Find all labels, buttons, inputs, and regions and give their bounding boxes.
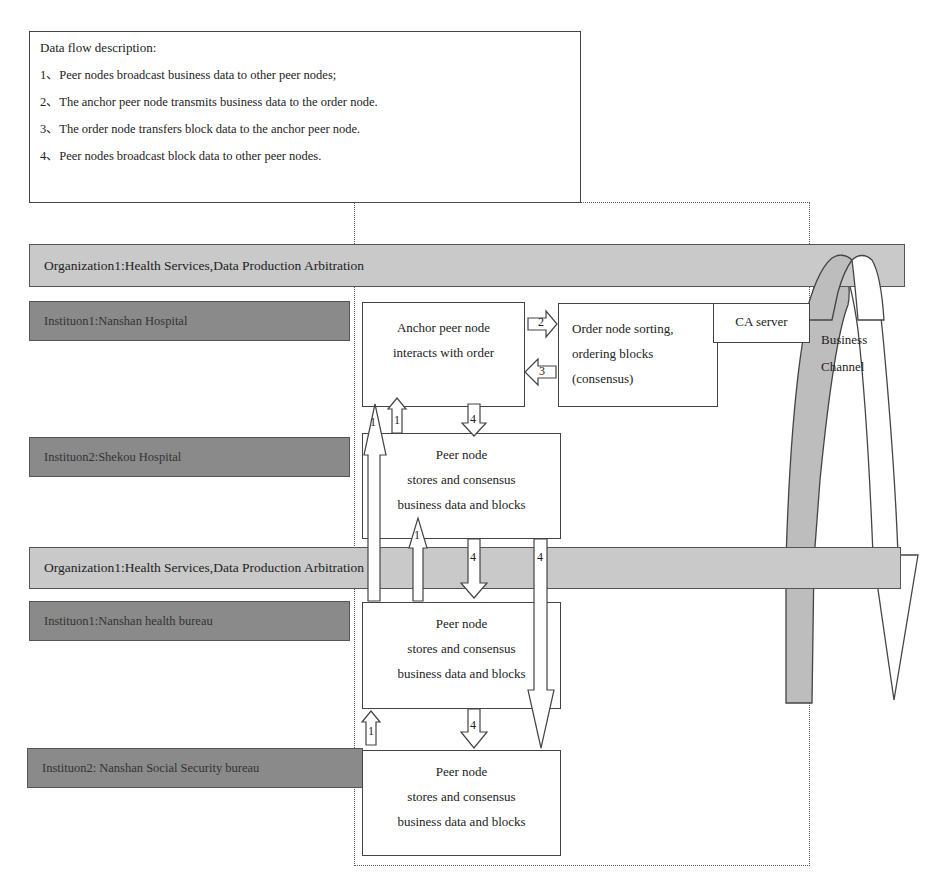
flow-label-4: 4	[537, 550, 543, 565]
flow-label-4: 4	[470, 550, 476, 565]
flow-label-1: 1	[414, 528, 420, 543]
flow-label-3: 3	[539, 364, 545, 379]
flow-arrows	[0, 0, 940, 893]
flow-label-2: 2	[538, 315, 544, 330]
flow-label-1: 1	[370, 415, 376, 430]
flow-label-1: 1	[394, 413, 400, 428]
flow-label-4: 4	[470, 718, 476, 733]
flow-label-4: 4	[470, 412, 476, 427]
flow-label-1: 1	[368, 724, 374, 739]
